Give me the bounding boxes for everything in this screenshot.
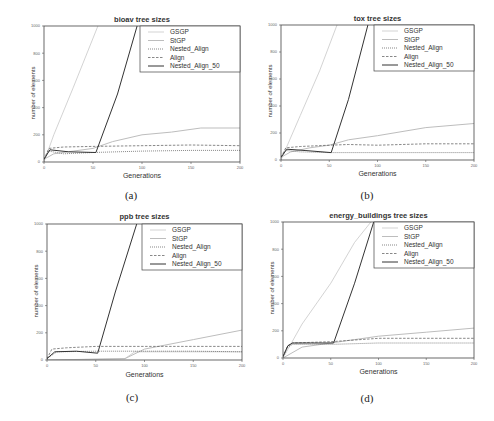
svg-text:Align: Align — [404, 250, 419, 258]
svg-text:Align: Align — [172, 252, 187, 260]
svg-text:200: 200 — [237, 165, 244, 170]
svg-text:200: 200 — [272, 328, 279, 333]
legend: GSGPStGPNested_AlignAlignNested_Align_50 — [374, 222, 474, 268]
subfigure-label: (b) — [352, 189, 382, 201]
series-line-stgp — [47, 330, 242, 360]
chart-title: energy_buildings tree sizes — [283, 211, 474, 220]
y-axis-label: number of elements — [30, 53, 36, 133]
subfigure-label: (c) — [117, 391, 147, 403]
svg-text:200: 200 — [471, 163, 478, 168]
svg-text:1000: 1000 — [34, 221, 44, 226]
svg-text:50: 50 — [329, 361, 334, 366]
series-line-gsgp — [283, 222, 371, 358]
svg-text:150: 150 — [423, 361, 430, 366]
svg-text:StGP: StGP — [404, 233, 420, 240]
series-line-nested-align-50 — [281, 25, 368, 157]
subfigure-label: (d) — [352, 392, 382, 404]
svg-text:Nested_Align_50: Nested_Align_50 — [172, 260, 222, 268]
svg-text:0: 0 — [280, 163, 283, 168]
series-line-nested-align-50 — [47, 224, 137, 359]
svg-text:200: 200 — [270, 130, 277, 135]
x-axis-label: Generations — [283, 368, 474, 375]
y-axis-label: number of elements — [267, 51, 273, 131]
svg-text:100: 100 — [375, 361, 382, 366]
series-line-nested-align — [281, 151, 474, 158]
svg-text:1000: 1000 — [268, 22, 278, 27]
plot-area: 05010015020002004006008001000GSGPStGPNes… — [44, 26, 240, 162]
svg-text:0: 0 — [275, 157, 278, 162]
svg-text:Nested_Align_50: Nested_Align_50 — [404, 258, 454, 266]
x-axis-label: Generations — [47, 371, 242, 378]
svg-text:GSGP: GSGP — [170, 28, 189, 35]
svg-text:Nested_Align: Nested_Align — [404, 241, 443, 249]
svg-text:Nested_Align_50: Nested_Align_50 — [404, 61, 454, 69]
series-line-gsgp — [281, 25, 337, 160]
plot-area: 05010015020002004006008001000GSGPStGPNes… — [47, 224, 242, 360]
svg-text:1000: 1000 — [31, 23, 41, 28]
x-axis-label: Generations — [44, 172, 240, 179]
svg-text:Align: Align — [404, 53, 419, 61]
svg-text:StGP: StGP — [404, 36, 420, 43]
svg-text:0: 0 — [43, 165, 46, 170]
svg-text:150: 150 — [188, 165, 195, 170]
svg-text:150: 150 — [190, 363, 197, 368]
chart-title: bioav tree sizes — [44, 15, 240, 24]
svg-text:0: 0 — [38, 159, 41, 164]
svg-text:GSGP: GSGP — [404, 27, 423, 34]
series-line-nested-align — [283, 343, 474, 357]
legend: GSGPStGPNested_AlignAlignNested_Align_50 — [374, 25, 474, 71]
series-line-align — [47, 346, 242, 358]
series-line-gsgp — [47, 352, 242, 360]
plot-area: 05010015020002004006008001000GSGPStGPNes… — [281, 25, 474, 160]
svg-text:Nested_Align_50: Nested_Align_50 — [170, 62, 220, 70]
legend: GSGPStGPNested_AlignAlignNested_Align_50 — [140, 26, 240, 72]
series-line-nested-align-50 — [283, 222, 374, 357]
svg-text:StGP: StGP — [170, 37, 186, 44]
svg-text:GSGP: GSGP — [404, 224, 423, 231]
svg-text:Nested_Align: Nested_Align — [404, 44, 443, 52]
svg-text:200: 200 — [239, 363, 246, 368]
svg-text:1000: 1000 — [270, 219, 280, 224]
svg-text:100: 100 — [139, 165, 146, 170]
svg-text:100: 100 — [141, 363, 148, 368]
legend: GSGPStGPNested_AlignAlignNested_Align_50 — [142, 224, 242, 270]
svg-text:0: 0 — [46, 363, 49, 368]
svg-text:GSGP: GSGP — [172, 226, 191, 233]
series-line-nested-align — [47, 351, 242, 358]
chart-title: tox tree sizes — [281, 14, 474, 23]
svg-text:Align: Align — [170, 54, 185, 62]
x-axis-label: Generations — [281, 170, 474, 177]
svg-text:StGP: StGP — [172, 235, 188, 242]
svg-text:50: 50 — [91, 165, 96, 170]
series-line-gsgp — [44, 26, 98, 162]
svg-text:150: 150 — [422, 163, 429, 168]
svg-text:0: 0 — [282, 361, 285, 366]
plot-area: 05010015020002004006008001000GSGPStGPNes… — [283, 222, 474, 358]
series-line-stgp — [44, 128, 240, 159]
svg-text:50: 50 — [327, 163, 332, 168]
y-axis-label: number of elements — [269, 248, 275, 328]
chart-title: ppb tree sizes — [47, 212, 242, 221]
svg-text:Nested_Align: Nested_Align — [172, 243, 211, 251]
series-line-align — [283, 338, 474, 356]
subfigure-label: (a) — [116, 189, 146, 201]
svg-text:0: 0 — [41, 357, 44, 362]
svg-text:0: 0 — [277, 355, 280, 360]
svg-text:200: 200 — [471, 361, 478, 366]
y-axis-label: number of elements — [33, 251, 39, 331]
svg-text:50: 50 — [94, 363, 99, 368]
svg-text:100: 100 — [374, 163, 381, 168]
svg-text:Nested_Align: Nested_Align — [170, 45, 209, 53]
